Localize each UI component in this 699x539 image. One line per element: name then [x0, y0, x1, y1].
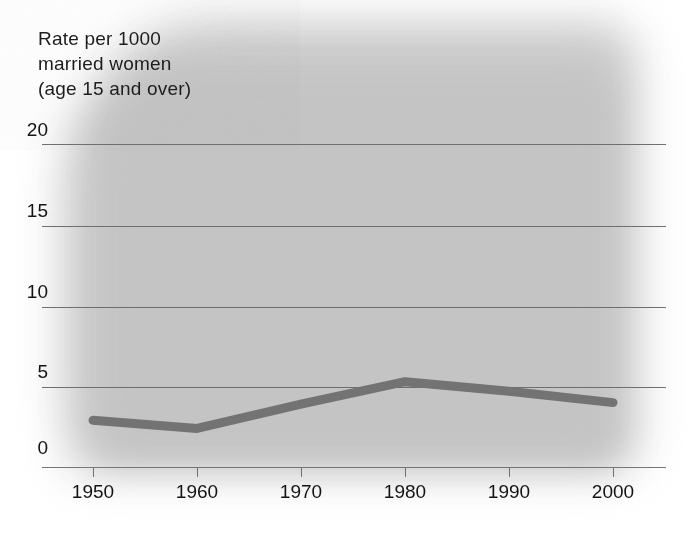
- data-line-divorce-rate: [93, 382, 613, 429]
- plot-area: 20 15 10 5 0 1950 1960 1970 1980 1990 20…: [0, 0, 699, 539]
- series-layer: [0, 0, 699, 539]
- chart-figure: Rate per 1000 married women (age 15 and …: [0, 0, 699, 539]
